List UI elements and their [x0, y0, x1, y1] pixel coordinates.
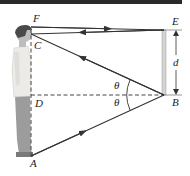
label-d: d	[173, 56, 179, 68]
person-pants	[15, 95, 33, 154]
label-D: D	[34, 97, 43, 109]
label-A: A	[29, 157, 37, 169]
ray-F-arrow	[31, 27, 110, 29]
label-C: C	[34, 39, 42, 51]
dimension-arrow-up-icon	[173, 30, 179, 36]
person-figure	[12, 25, 33, 157]
label-B: B	[172, 96, 179, 108]
ray-A-arrow	[31, 131, 85, 156]
label-F: F	[32, 12, 40, 24]
mirror	[162, 30, 166, 95]
ray-E-arrow	[80, 30, 164, 33]
label-theta-top: θ	[114, 79, 120, 91]
ray-B-arrow	[80, 57, 164, 96]
dimension-arrow-down-icon	[173, 89, 179, 95]
ray-diagram: F C D A E B d θ θ	[0, 0, 190, 176]
label-E: E	[171, 15, 179, 27]
label-theta-bottom: θ	[114, 96, 120, 108]
